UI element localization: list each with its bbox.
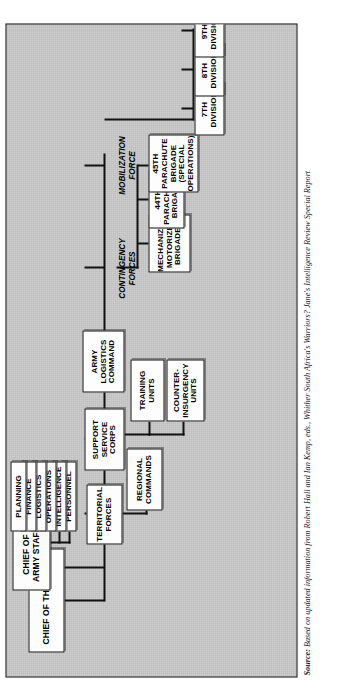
connector-stub-counter-insurgency — [182, 421, 184, 435]
node-territorial-forces[interactable]: TERRITORIAL FORCES — [86, 484, 122, 544]
node-counter-insurgency-units[interactable]: COUNTER- INSURGENCY UNITS — [166, 359, 204, 421]
connector-stub-div7 — [181, 107, 193, 109]
node-training-units[interactable]: TRAINING UNITS — [130, 359, 164, 421]
node-training-units-label: TRAINING UNITS — [138, 370, 156, 409]
chart-panel: CHIEF OF THE ARMY CHIEF OF ARMY STAFF PE… — [5, 23, 297, 677]
node-support-service-corps[interactable]: SUPPORT SERVICE CORPS — [84, 408, 124, 470]
connector-stub-para44 — [137, 198, 149, 200]
source-caption-prefix: Source: — [302, 649, 311, 675]
label-mobilization-force-text: MOBILIZATION FORCE — [117, 136, 135, 195]
connector-regional-children-spine — [148, 433, 184, 435]
connector-stub-div9 — [181, 29, 193, 31]
connector-stub-intelligence — [58, 531, 60, 543]
node-territorial-forces-label: TERRITORIAL FORCES — [95, 487, 113, 542]
source-caption-text: Based on updated information from Robert… — [302, 170, 311, 648]
node-regional-commands[interactable]: REGIONAL COMMANDS — [126, 448, 162, 510]
connector-chief-army-down — [64, 599, 104, 601]
node-planning[interactable]: PLANNING — [10, 461, 26, 531]
connector-mobilization-drop — [104, 118, 194, 120]
node-45th-parachute-brigade[interactable]: 45TH PARACHUTE BRIGADE (SPECIAL OPERATIO… — [148, 134, 198, 192]
org-chart-canvas: CHIEF OF THE ARMY CHIEF OF ARMY STAFF PE… — [0, 0, 341, 683]
node-counter-insurgency-units-label: COUNTER- INSURGENCY UNITS — [172, 363, 199, 417]
node-chief-of-army-staff-label: CHIEF OF ARMY STAFF — [21, 527, 40, 582]
node-support-service-corps-label: SUPPORT SERVICE CORPS — [91, 419, 118, 458]
node-army-logistics-command[interactable]: ARMY LOGISTICS COMMAND — [82, 330, 124, 392]
node-army-logistics-command-label: ARMY LOGISTICS COMMAND — [90, 339, 117, 383]
figure-page: CHIEF OF THE ARMY CHIEF OF ARMY STAFF PE… — [0, 0, 341, 683]
connector-territorial-down — [121, 512, 147, 514]
node-regional-commands-label: REGIONAL COMMANDS — [135, 455, 153, 504]
source-caption: Source: Based on updated information fro… — [302, 25, 311, 675]
label-mobilization-force: MOBILIZATION FORCE — [108, 126, 136, 204]
label-contingency-forces-text: CONTINGENCY FORCES — [117, 238, 135, 299]
connector-branch-mobilization — [84, 164, 104, 166]
connector-stub-mech — [137, 242, 149, 244]
connector-stub-para45 — [137, 164, 149, 166]
connector-stub-personnel — [68, 531, 70, 543]
node-9th-division-label: 9TH DIVISION — [200, 23, 218, 54]
connector-branch-contingency — [84, 266, 104, 268]
node-9th-division[interactable]: 9TH DIVISION — [194, 23, 224, 57]
label-contingency-forces: CONTINGENCY FORCES — [108, 232, 136, 304]
node-planning-label: PLANNING — [14, 475, 23, 518]
node-45th-parachute-brigade-label: 45TH PARACHUTE BRIGADE (SPECIAL OPERATIO… — [151, 135, 196, 191]
rotation-wrapper: CHIEF OF THE ARMY CHIEF OF ARMY STAFF PE… — [0, 0, 341, 683]
connector-stub-div8 — [181, 68, 193, 70]
